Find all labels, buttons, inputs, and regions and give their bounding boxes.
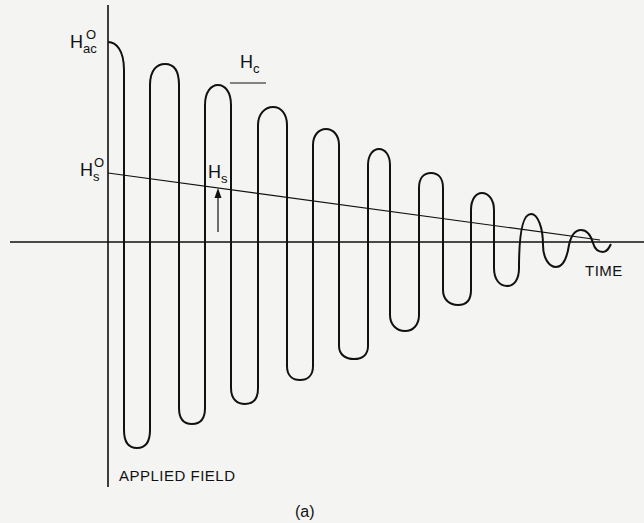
label-hs0-sub: s — [93, 169, 100, 184]
label-hac0-sup: O — [86, 27, 96, 42]
label-hc: Hc — [240, 52, 260, 76]
label-hs: Hs — [208, 162, 228, 186]
label-hc-main: H — [240, 52, 253, 72]
figure-caption: (a) — [295, 503, 315, 521]
y-axis-label: APPLIED FIELD — [119, 467, 236, 484]
label-hs-sub: s — [221, 171, 228, 186]
label-hs-main: H — [208, 162, 221, 182]
x-axis-label: TIME — [585, 262, 623, 279]
damped-waveform — [108, 42, 611, 448]
hs-arrow-head — [215, 188, 222, 198]
figure-canvas — [0, 0, 644, 523]
hs-bias-line — [108, 173, 600, 240]
label-hac0-sub: ac — [83, 41, 97, 56]
label-hs0-sup: O — [94, 155, 104, 170]
label-hs0-main: H — [80, 160, 93, 180]
label-hc-sub: c — [253, 61, 260, 76]
label-hac0-main: H — [70, 32, 83, 52]
